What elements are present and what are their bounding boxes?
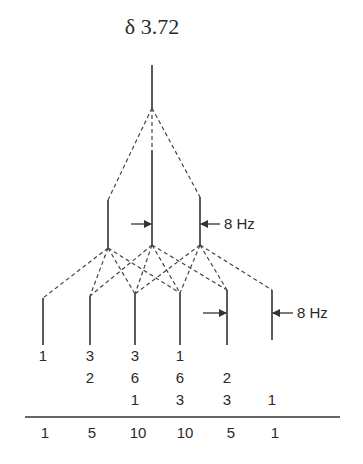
svg-text:1: 1 [41,424,49,441]
second-split-lines [43,290,272,345]
svg-text:10: 10 [130,424,147,441]
second-splitting-dashes [43,245,272,298]
svg-text:3: 3 [176,391,184,408]
svg-text:1: 1 [131,391,139,408]
svg-text:3: 3 [131,347,139,364]
first-splitting-dashes [108,108,200,200]
coupling-label-second: 8 Hz [297,304,328,321]
svg-text:2: 2 [223,369,231,386]
intensity-row-3: 1 3 3 1 [131,391,276,408]
first-split-lines [108,150,200,248]
svg-text:1: 1 [271,424,279,441]
svg-text:3: 3 [223,391,231,408]
sum-row: 1 5 10 10 5 1 [41,424,279,441]
coupling-annotation-first: 8 Hz [131,215,255,232]
coupling-annotation-second: 8 Hz [203,304,328,321]
svg-text:6: 6 [131,369,139,386]
chemical-shift-title: δ 3.72 [125,14,179,39]
svg-text:1: 1 [176,347,184,364]
svg-text:2: 2 [86,369,94,386]
intensity-table: 1 3 3 1 2 6 6 2 1 3 3 1 1 5 10 [25,347,340,441]
svg-text:10: 10 [177,424,194,441]
splitting-tree-diagram: δ 3.72 8 Hz [0,0,363,464]
intensity-row-2: 2 6 6 2 [86,369,231,386]
svg-text:6: 6 [176,369,184,386]
svg-text:1: 1 [268,391,276,408]
svg-text:5: 5 [88,424,96,441]
svg-text:5: 5 [227,424,235,441]
intensity-row-1: 1 3 3 1 [39,347,184,364]
coupling-label-first: 8 Hz [224,215,255,232]
svg-text:3: 3 [86,347,94,364]
svg-text:1: 1 [39,347,47,364]
